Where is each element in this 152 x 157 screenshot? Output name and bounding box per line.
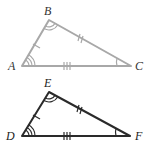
vertex-label-d: D [5,129,15,143]
vertex-label-f: F [134,129,143,143]
vertex-label-a: A [7,59,16,73]
vertex-label-b: B [44,4,52,18]
congruent-triangles-diagram: B A C E D F [0,0,152,157]
vertex-label-c: C [135,59,144,73]
triangle-abc [22,20,131,70]
triangle-def [22,92,130,140]
vertex-label-e: E [43,76,52,90]
